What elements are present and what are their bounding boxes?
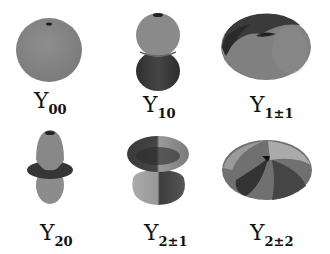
label-y00: Y00 (34, 90, 67, 121)
harmonics-canvas (0, 0, 330, 254)
y2pm2-orbital-icon (222, 140, 312, 200)
y1pm1-ellipsoid-icon (221, 13, 311, 80)
y20-orbital-icon (27, 130, 73, 204)
y00-sphere-icon (16, 18, 82, 82)
label-y2pm2: Y2±2 (250, 222, 294, 253)
y10-dumbbell-icon (136, 13, 180, 91)
label-y2pm1: Y2±1 (144, 222, 188, 253)
label-y1pm1: Y1±1 (250, 94, 294, 125)
y2pm1-orbital-icon (127, 136, 189, 205)
label-y20: Y20 (40, 222, 73, 253)
label-y10: Y10 (143, 94, 176, 125)
